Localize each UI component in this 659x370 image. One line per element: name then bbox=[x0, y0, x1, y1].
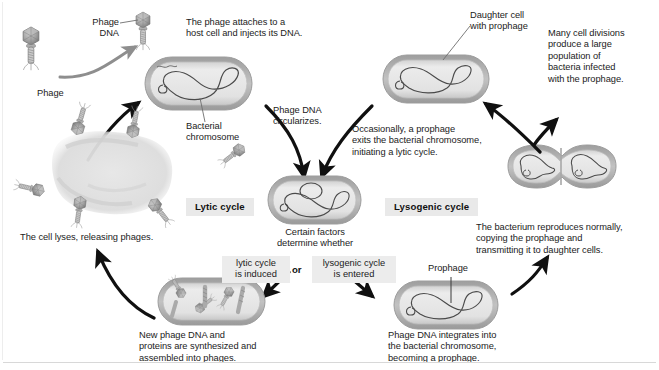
arrow-to-daughter-cell bbox=[486, 104, 540, 152]
tag-lytic-induced: lytic cycle is induced bbox=[222, 256, 290, 283]
dividing-bacterium-icon bbox=[508, 145, 616, 188]
decision-prompt: Certain factors determine whether bbox=[276, 227, 354, 250]
daughter-cell-icon bbox=[383, 55, 489, 103]
label-phage-dna: Phage DNA bbox=[91, 17, 119, 40]
label-prophage: Prophage bbox=[428, 263, 468, 274]
phage-attached-icon bbox=[136, 12, 150, 50]
bottom-rule bbox=[3, 362, 656, 363]
caption-attach: The phage attaches to a host cell and in… bbox=[186, 17, 302, 40]
arrow-to-many-divisions bbox=[534, 120, 556, 145]
arrow-phage-to-cell bbox=[60, 47, 135, 77]
phage-icon bbox=[23, 27, 39, 70]
caption-lyses: The cell lyses, releasing phages. bbox=[20, 232, 153, 243]
figure-canvas: Phage Phage DNA The phage attaches to a … bbox=[0, 0, 659, 370]
label-daughter-cell: Daughter cell with prophage bbox=[470, 10, 528, 33]
tag-lysogenic-cycle: Lysogenic cycle bbox=[385, 198, 478, 216]
tag-or: or bbox=[292, 264, 302, 275]
label-phage: Phage bbox=[37, 88, 64, 99]
caption-prophage-exits: Occasionally, a prophage exits the bacte… bbox=[352, 124, 482, 158]
tag-lysogenic-entered: lysogenic cycle is entered bbox=[312, 256, 396, 283]
phage-injecting-icon bbox=[217, 142, 247, 169]
arrow-prophage-to-division bbox=[512, 258, 547, 294]
caption-reproduces: The bacterium reproduces normally, copyi… bbox=[476, 222, 622, 256]
caption-new-phage: New phage DNA and proteins are synthesiz… bbox=[139, 330, 256, 364]
caption-circularize: Phage DNA circularizes. bbox=[273, 105, 322, 128]
arrow-assembly-to-lysis bbox=[98, 252, 154, 318]
lysed-cell-icon bbox=[13, 101, 175, 228]
center-bacterium-icon bbox=[268, 176, 361, 224]
leader-phage-dna bbox=[120, 20, 138, 23]
bacterium-icon bbox=[145, 57, 252, 110]
caption-many-divisions: Many cell divisions produce a large popu… bbox=[548, 28, 625, 85]
label-bacterial-chromosome: Bacterial chromosome bbox=[186, 121, 239, 144]
prophage-cell-icon bbox=[394, 281, 498, 329]
left-edge-rule bbox=[2, 2, 3, 360]
caption-integrates: Phage DNA integrates into the bacterial … bbox=[388, 330, 496, 364]
tag-lytic-cycle: Lytic cycle bbox=[186, 198, 254, 216]
